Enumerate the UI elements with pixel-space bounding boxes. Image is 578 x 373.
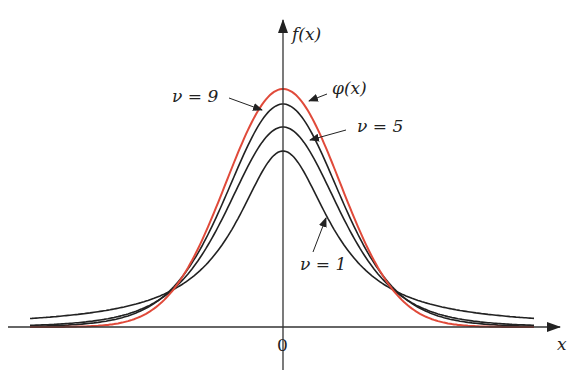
arrow-nu-1 [313, 218, 326, 252]
origin-tick-label: 0 [277, 335, 288, 355]
label-nu-5: ν = 5 [357, 116, 403, 136]
arrow-nu-5 [310, 130, 346, 140]
x-axis-label: x [557, 334, 567, 354]
y-axis-label: f(x) [290, 24, 321, 44]
density-curves [30, 89, 534, 327]
label-nu-9: ν = 9 [172, 86, 218, 106]
curve-nu-9 [30, 104, 534, 326]
label-phi: φ(x) [332, 78, 367, 98]
label-nu-1: ν = 1 [300, 254, 346, 274]
arrow-nu-9 [229, 98, 262, 110]
curve-nu-5 [30, 127, 534, 325]
arrow-phi [309, 94, 327, 101]
t-distribution-chart: f(x) x 0 ν = 9 φ(x) ν = 5 ν = 1 [0, 0, 578, 373]
curve-nu-1 [30, 151, 534, 318]
curve-phi [30, 89, 534, 327]
